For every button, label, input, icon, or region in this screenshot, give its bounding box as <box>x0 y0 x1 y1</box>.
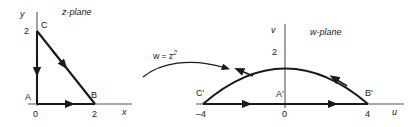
mapping-arrow <box>143 62 226 77</box>
z-plane-title: z-plane <box>62 8 92 17</box>
w-plane-u-tick-neg4: –4 <box>196 110 206 119</box>
z-plane-x-tick-2: 2 <box>92 110 97 119</box>
w-plane-arc-arrow-left <box>239 70 253 76</box>
figure-vector-layer <box>0 0 412 127</box>
w-plane-u-tick-4: 4 <box>365 110 370 119</box>
z-plane-x-axis-label: x <box>122 108 127 117</box>
z-plane-vertex-B-label: B <box>91 91 97 100</box>
mapping-w-symbol: w <box>153 51 160 61</box>
w-plane-v-axis-label: v <box>271 26 276 35</box>
w-plane-title: w-plane <box>310 28 342 37</box>
z-plane-edge-CB-arrow <box>52 50 64 65</box>
w-plane-v-tick-2: 2 <box>272 48 277 57</box>
complex-mapping-figure: z-plane y x 2 0 2 A B C w=z2 w-plane v u… <box>0 0 412 127</box>
w-plane-origin-tick: 0 <box>282 110 287 119</box>
w-plane-vertex-C-label: C' <box>196 89 204 98</box>
w-plane-vertex-B-label: B' <box>365 89 373 98</box>
z-plane-edge-CB <box>37 31 95 104</box>
z-plane-vertex-A-label: A <box>25 93 31 102</box>
z-plane-y-axis-label: y <box>20 10 25 19</box>
mapping-equation: w=z2 <box>153 50 177 61</box>
z-plane-vertex-C-label: C <box>41 21 48 30</box>
w-plane-vertex-A-label: A' <box>276 90 284 99</box>
w-plane-u-axis-label: u <box>392 108 397 117</box>
mapping-equals: = <box>160 51 169 61</box>
z-plane-y-tick-2: 2 <box>24 27 29 36</box>
mapping-exponent: 2 <box>173 49 177 56</box>
z-plane-origin-tick: 0 <box>33 110 38 119</box>
